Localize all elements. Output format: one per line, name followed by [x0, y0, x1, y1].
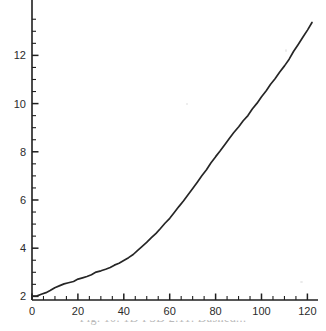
scan-speck [300, 281, 303, 283]
figure-caption: Fig. 10. 1D PSD 2.11. Dashed... [0, 320, 326, 331]
scan-speck [285, 49, 287, 52]
y-axis-ticks [32, 19, 39, 296]
y-tick-label: 12 [14, 49, 26, 61]
y-tick-label: 2 [20, 290, 26, 302]
y-axis-tick-labels: 24681012 [14, 49, 26, 302]
figure-canvas: 020406080100120 24681012 Fig. 10. 1D PSD… [0, 0, 326, 331]
x-tick-label: 100 [252, 305, 270, 317]
line-chart: 020406080100120 24681012 [0, 0, 326, 331]
y-tick-label: 6 [20, 194, 26, 206]
scan-speck [186, 103, 188, 105]
data-series-curve [32, 23, 312, 297]
x-tick-label: 60 [164, 305, 176, 317]
x-tick-label: 40 [118, 305, 130, 317]
x-tick-label: 120 [298, 305, 316, 317]
y-tick-label: 10 [14, 98, 26, 110]
x-tick-label: 20 [72, 305, 84, 317]
figure-caption-text: Fig. 10. 1D PSD 2.11. Dashed... [80, 320, 247, 326]
x-tick-label: 80 [209, 305, 221, 317]
y-tick-label: 4 [20, 242, 26, 254]
x-axis-ticks [32, 294, 307, 301]
x-tick-label: 0 [29, 305, 35, 317]
x-axis-tick-labels: 020406080100120 [29, 305, 317, 317]
y-tick-label: 8 [20, 146, 26, 158]
axes-group [32, 0, 318, 300]
